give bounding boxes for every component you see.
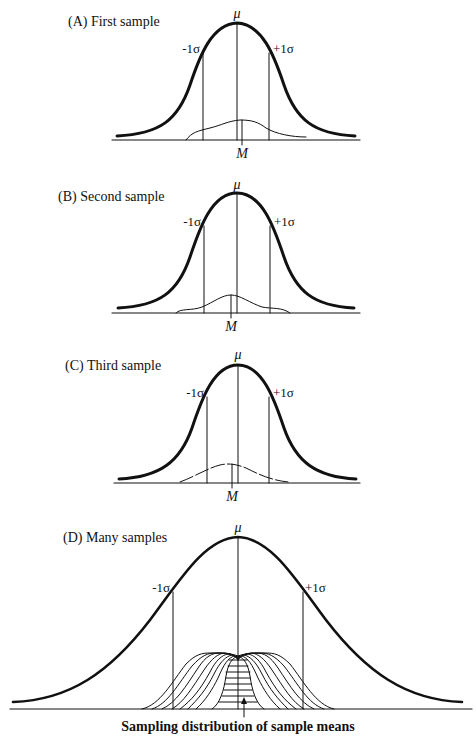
minus-sigma-label: -1σ bbox=[186, 385, 204, 400]
population-curve bbox=[117, 23, 355, 136]
panel-b-title: (B) Second sample bbox=[58, 189, 165, 205]
caption: Sampling distribution of sample means bbox=[121, 719, 355, 734]
sample-distribution bbox=[176, 295, 290, 313]
sample-distribution bbox=[180, 464, 288, 482]
mu-label: μ bbox=[232, 177, 240, 192]
panel-b bbox=[112, 193, 360, 318]
panel-d-title: (D) Many samples bbox=[63, 530, 167, 546]
mu-label: μ bbox=[233, 347, 241, 362]
sampling-diagram: (A) First sample μ -1σ +1σ M (B) Second … bbox=[0, 0, 476, 743]
plus-sigma-label: +1σ bbox=[274, 214, 295, 229]
sample-mean-label: M bbox=[235, 146, 249, 161]
mu-label: μ bbox=[233, 520, 241, 535]
sample-mean-label: M bbox=[224, 319, 238, 334]
plus-sigma-label: +1σ bbox=[305, 580, 326, 595]
sample-mean-label: M bbox=[225, 489, 239, 504]
minus-sigma-label: -1σ bbox=[182, 41, 200, 56]
minus-sigma-label: -1σ bbox=[152, 580, 170, 595]
minus-sigma-label: -1σ bbox=[183, 214, 201, 229]
plus-sigma-label: +1σ bbox=[273, 41, 294, 56]
mu-label: μ bbox=[232, 6, 240, 21]
panel-a bbox=[112, 23, 360, 145]
panel-c bbox=[114, 365, 360, 488]
panel-c-title: (C) Third sample bbox=[65, 358, 161, 374]
sample-distribution bbox=[186, 120, 306, 140]
arrow-icon bbox=[241, 697, 247, 717]
panel-d bbox=[10, 537, 472, 717]
panel-a-title: (A) First sample bbox=[68, 14, 160, 30]
plus-sigma-label: +1σ bbox=[273, 385, 294, 400]
population-curve bbox=[118, 193, 354, 308]
